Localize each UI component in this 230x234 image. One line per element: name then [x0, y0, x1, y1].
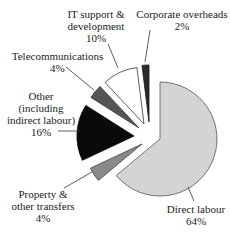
label-corporate-name: Corporate overheads	[134, 8, 230, 20]
label-other-name-3: indirect labour)	[6, 114, 76, 126]
label-it: IT support & development 10%	[56, 8, 136, 44]
label-property: Property & other transfers 4%	[6, 188, 80, 224]
leader-it	[108, 44, 118, 68]
label-direct: Direct labour 64%	[160, 203, 230, 227]
label-other-name-1: Other	[6, 90, 76, 102]
leader-corporate	[145, 30, 150, 62]
label-other-name-2: (including	[6, 102, 76, 114]
label-it-name-2: development	[56, 20, 136, 32]
label-it-value: 10%	[56, 32, 136, 44]
label-property-value: 4%	[6, 212, 80, 224]
label-other-value: 16%	[6, 126, 76, 138]
leader-property	[64, 172, 92, 188]
label-corporate-value: 2%	[134, 20, 230, 32]
label-property-name-2: other transfers	[6, 200, 80, 212]
label-telecom: Telecommunications 4%	[10, 50, 105, 74]
label-direct-name: Direct labour	[160, 203, 230, 215]
label-it-name-1: IT support &	[56, 8, 136, 20]
leader-direct	[188, 187, 194, 201]
label-corporate: Corporate overheads 2%	[134, 8, 230, 32]
label-telecom-value: 4%	[10, 62, 105, 74]
label-other: Other (including indirect labour) 16%	[6, 90, 76, 138]
label-property-name-1: Property &	[6, 188, 80, 200]
label-direct-value: 64%	[160, 215, 230, 227]
label-telecom-name: Telecommunications	[10, 50, 105, 62]
